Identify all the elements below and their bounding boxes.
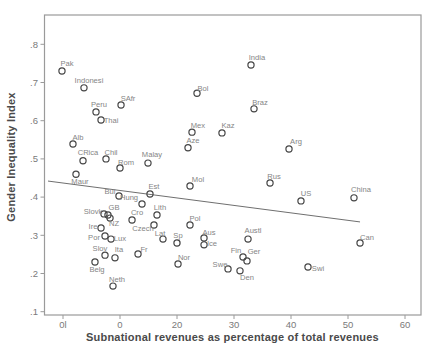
point-label-Slovk: Slovk	[84, 207, 103, 216]
point-label-Sp: Sp	[173, 231, 182, 240]
point-label-Rom: Rom	[118, 158, 134, 167]
point-label-Aus: Aus	[202, 228, 215, 237]
point-label-Austl: Austl	[245, 226, 262, 235]
point-label-Alb: Alb	[72, 133, 83, 142]
data-point-US	[298, 198, 304, 204]
x-tick-label: 40	[286, 319, 297, 330]
y-tick-label: .7	[30, 77, 38, 88]
data-point-Ger	[244, 258, 250, 264]
data-point-Lith	[154, 212, 160, 218]
x-tick-label: 20	[172, 319, 183, 330]
point-label-Peru: Peru	[91, 100, 107, 109]
point-label-Belg: Belg	[89, 265, 104, 274]
point-label-Ire: Ire	[89, 222, 98, 231]
data-point-SAfr	[118, 102, 124, 108]
point-label-GB: GB	[108, 203, 119, 212]
point-label-Swi: Swi	[312, 264, 325, 273]
y-tick-label: .6	[30, 115, 38, 126]
point-label-Pak: Pak	[60, 59, 73, 68]
point-label-Bul: Bul	[104, 187, 115, 196]
point-label-Mex: Mex	[191, 121, 206, 130]
data-point-Mex	[189, 129, 195, 135]
point-label-Por: Por	[88, 233, 100, 242]
data-point-Neth	[110, 283, 116, 289]
data-point-Rus	[267, 180, 273, 186]
data-point-Malay	[145, 160, 151, 166]
point-label-Lat: Lat	[155, 229, 166, 238]
x-tick-label: 30	[229, 319, 240, 330]
data-point-Kaz	[219, 130, 225, 136]
y-tick-label: .1	[30, 306, 38, 317]
point-label-US: US	[301, 189, 312, 198]
point-label-Rus: Rus	[267, 172, 281, 181]
point-label-SAfr: SAfr	[121, 94, 136, 103]
trend-line	[48, 181, 360, 222]
point-label-India: India	[249, 53, 266, 62]
data-point-Hung	[139, 201, 145, 207]
y-tick-label: .2	[30, 268, 38, 279]
data-point-Pak	[59, 68, 65, 74]
point-label-China: China	[351, 185, 372, 194]
point-label-Lux: Lux	[114, 234, 126, 243]
plot-canvas: 0l02030405060.1.2.3.4.5.6.7.8PakIndonesi…	[0, 0, 440, 361]
y-tick-label: .8	[30, 39, 38, 50]
x-tick-label: 0	[117, 319, 122, 330]
point-label-Slov: Slov	[93, 244, 108, 253]
x-axis-title: Subnational revenues as percentage of to…	[44, 331, 421, 343]
data-point-Ita	[112, 255, 118, 261]
point-label-Czech: Czech	[132, 224, 154, 233]
data-point-Pol	[187, 222, 193, 228]
data-point-Slov	[102, 252, 108, 258]
x-tick-label: 0l	[59, 319, 66, 330]
point-label-Indonesi: Indonesi	[75, 76, 104, 85]
point-label-Thai: Thai	[104, 116, 119, 125]
y-tick-label: .5	[30, 153, 38, 164]
point-label-Fr: Fr	[140, 245, 148, 254]
point-label-Nor: Nor	[178, 253, 191, 262]
data-point-Indonesi	[81, 85, 87, 91]
data-point-Sp	[174, 240, 180, 246]
data-point-Mol	[187, 183, 193, 189]
point-label-Malay: Malay	[142, 150, 162, 159]
point-label-Ger: Ger	[248, 247, 261, 256]
point-label-Can: Can	[360, 233, 374, 242]
point-label-Cro: Cro	[131, 208, 143, 217]
scatter-plot-figure: 0l02030405060.1.2.3.4.5.6.7.8PakIndonesi…	[0, 0, 440, 361]
point-label-Kaz: Kaz	[221, 121, 234, 130]
point-label-Fin: Fin	[231, 246, 242, 255]
data-point-Por	[102, 233, 108, 239]
data-point-China	[351, 195, 357, 201]
point-label-CRica: CRica	[78, 148, 99, 157]
data-point-Nor	[175, 261, 181, 267]
point-label-Est: Est	[148, 182, 160, 191]
point-label-NZ: NZ	[109, 219, 119, 228]
x-tick-label: 60	[400, 319, 411, 330]
point-label-Ita: Ita	[115, 245, 124, 254]
data-point-CRica	[80, 158, 86, 164]
data-point-Chil	[103, 156, 109, 162]
point-label-Ice: Ice	[207, 239, 217, 248]
point-label-Aze: Aze	[186, 136, 199, 145]
x-tick-label: 50	[343, 319, 354, 330]
y-axis-title: Gender Inequality Index	[5, 92, 17, 221]
data-point-Arg	[286, 146, 292, 152]
point-label-Maur: Maur	[71, 177, 89, 186]
point-label-Swe: Swe	[213, 260, 228, 269]
point-label-Neth: Neth	[109, 275, 125, 284]
point-label-Lith: Lith	[154, 203, 166, 212]
data-point-Ire	[98, 225, 104, 231]
point-label-Chil: Chil	[104, 148, 117, 157]
data-point-Peru	[93, 109, 99, 115]
point-label-Hung: Hung	[120, 193, 138, 202]
point-label-Braz: Braz	[252, 98, 268, 107]
y-tick-label: .3	[30, 230, 38, 241]
point-label-Mol: Mol	[192, 175, 205, 184]
data-point-Cro	[129, 217, 135, 223]
y-tick-label: .4	[30, 191, 38, 202]
data-point-India	[248, 62, 254, 68]
point-label-Bol: Bol	[198, 84, 209, 93]
point-label-Arg: Arg	[290, 137, 302, 146]
point-label-Pol: Pol	[190, 214, 201, 223]
data-point-Fin	[240, 254, 246, 260]
data-point-Alb	[70, 141, 76, 147]
